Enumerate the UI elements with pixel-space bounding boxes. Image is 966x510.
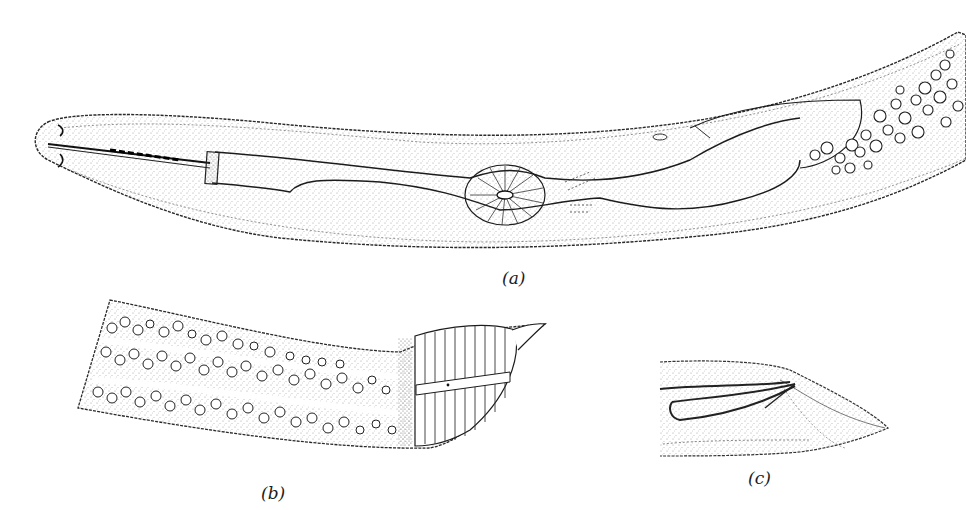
caption-fragment: [820, 500, 966, 510]
body-outline-c: [660, 361, 888, 456]
panel-label-a: (a): [502, 268, 525, 288]
panel-c-drawing: [0, 0, 966, 510]
panel-label-c: (c): [748, 468, 771, 488]
nematode-figure: (a) (b) (c): [0, 0, 966, 510]
panel-label-b: (b): [261, 483, 285, 503]
